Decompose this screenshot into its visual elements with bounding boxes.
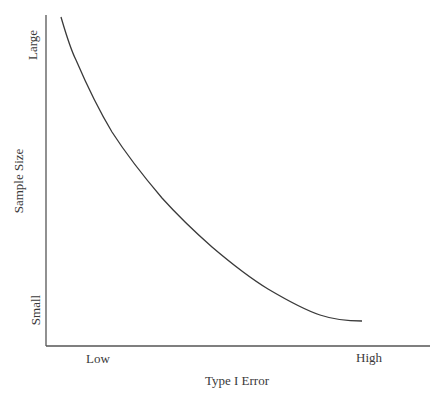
x-tick-low: Low [86, 352, 110, 365]
y-axis-title: Sample Size [12, 149, 25, 214]
chart-plot [0, 0, 440, 397]
y-tick-large: Large [26, 30, 39, 60]
x-tick-high: High [356, 351, 382, 364]
x-axis-title: Type I Error [205, 374, 269, 387]
sample-size-curve [61, 17, 362, 321]
y-tick-small: Small [29, 295, 42, 325]
